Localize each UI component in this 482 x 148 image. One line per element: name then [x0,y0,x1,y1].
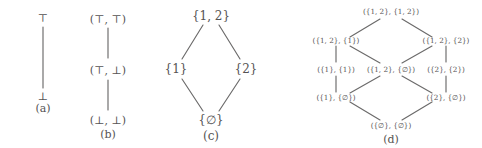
node-c-1: {1} [165,63,188,75]
caption-b: (b) [100,129,116,140]
edge-d-c2-r3 [402,76,432,93]
node-d-right-2: ({2}, {2}) [427,66,465,73]
node-d-left-3: ({1}, {∅}) [316,94,355,101]
node-b-tb: (⊤, ⊥) [90,65,126,76]
node-d-left-2: ({1}, {1}) [317,66,355,73]
diagram-panel-c: {1, 2} {1} {2} {∅} (c) [150,0,280,148]
edge-d-c2-l3 [350,76,380,93]
edge-d-r3-bot [402,102,432,120]
edge-d-l3-bot [350,102,380,120]
node-d-left-1: ({1, 2}, {1}) [313,37,360,44]
caption-c: (c) [203,130,219,142]
node-d-bottom: ({∅}, {∅}) [371,122,411,129]
node-c-12: {1, 2} [192,10,230,22]
caption-d: (d) [383,134,399,145]
node-d-right-1: ({1, 2}, {2}) [423,37,470,44]
edge-c-12-2 [219,25,240,59]
hasse-diagram-figure: ⊤ ⊥ (a) (⊤, ⊤) (⊤, ⊥) (⊥, ⊥) (b) {1, 2} … [0,0,482,148]
node-d-center-2: ({1, 2}, {∅}) [367,66,415,73]
node-a-top: ⊤ [38,13,48,24]
node-b-tt: (⊤, ⊤) [90,14,126,25]
node-d-right-3: ({2}, {∅}) [426,94,465,101]
caption-a: (a) [35,103,50,114]
edge-d-top-l1 [350,19,380,37]
diagram-panel-d: ({1, 2}, {1, 2}) ({1, 2}, {1}) ({1, 2}, … [298,0,482,148]
node-c-2: {2} [235,63,258,75]
edge-c-2-e [219,79,240,111]
edge-c-12-1 [182,25,203,59]
edge-c-1-e [182,79,203,111]
node-a-bot: ⊥ [38,91,48,102]
node-b-bb: (⊥, ⊥) [90,115,126,126]
node-d-top: ({1, 2}, {1, 2}) [363,8,419,15]
edge-d-top-r1 [402,19,432,37]
node-c-empty: {∅} [198,114,223,126]
edge-d-r1-c2 [402,46,432,63]
edge-d-l1-c2 [350,46,380,63]
